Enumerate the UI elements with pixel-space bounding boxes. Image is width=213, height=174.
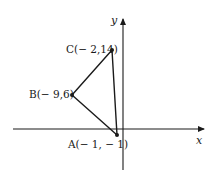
- point-a-label: A(− 1, − 1): [67, 138, 128, 150]
- y-axis-label: y: [110, 14, 118, 27]
- point-b-label: B(− 9,6): [29, 88, 74, 100]
- point-c-label: C(− 2,14): [66, 43, 118, 55]
- x-axis-label: x: [196, 134, 203, 147]
- coordinate-plane: x y C(− 2,14) B(− 9,6) A(− 1, − 1): [0, 0, 213, 174]
- point-a: [115, 133, 119, 137]
- triangle-abc: [72, 50, 117, 135]
